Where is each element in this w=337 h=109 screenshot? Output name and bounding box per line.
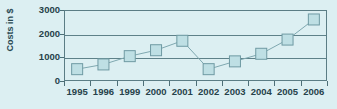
- x-tick-mark: [301, 81, 302, 86]
- data-point-marker: [124, 51, 135, 62]
- x-tick-mark: [222, 81, 223, 86]
- x-tick-mark: [117, 81, 118, 86]
- chart-container: Costs in $ 0100020003000 199519961999200…: [0, 0, 337, 109]
- x-tick-mark: [169, 81, 170, 86]
- x-tick-mark: [196, 81, 197, 86]
- series-line-costs: [77, 19, 314, 69]
- data-point-marker: [282, 34, 293, 45]
- x-tick-mark: [64, 81, 65, 86]
- x-tick-mark: [274, 81, 275, 86]
- data-point-marker: [72, 64, 83, 75]
- x-tick-mark: [248, 81, 249, 86]
- y-tick-mark: [60, 10, 64, 11]
- data-point-marker: [256, 48, 267, 59]
- x-tick-mark: [90, 81, 91, 86]
- data-markers: [72, 14, 320, 75]
- x-tick-mark: [143, 81, 144, 86]
- y-tick-mark: [60, 34, 64, 35]
- data-point-marker: [177, 35, 188, 46]
- data-point-marker: [308, 14, 319, 25]
- x-tick-mark: [327, 81, 328, 86]
- data-point-marker: [98, 59, 109, 70]
- data-point-marker: [203, 64, 214, 75]
- y-tick-mark: [60, 57, 64, 58]
- data-point-marker: [151, 45, 162, 56]
- x-tick-label: 2006: [297, 87, 331, 97]
- data-point-marker: [229, 56, 240, 67]
